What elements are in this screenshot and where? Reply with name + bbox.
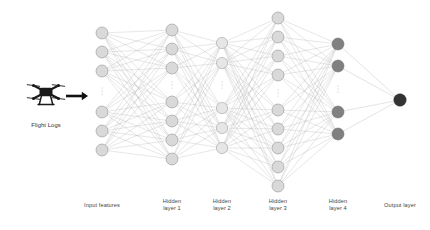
neuron-node xyxy=(216,37,227,48)
neuron-node xyxy=(272,50,284,62)
connection-line xyxy=(338,100,400,112)
connection-line xyxy=(222,63,278,148)
neuron-node xyxy=(272,104,284,116)
connection-line xyxy=(172,68,222,148)
icon-group xyxy=(27,84,88,105)
neuron-node xyxy=(216,57,227,68)
ellipsis-dot xyxy=(222,88,223,89)
neuron-node xyxy=(166,115,178,127)
neuron-node xyxy=(272,31,284,43)
ellipsis-dot xyxy=(338,85,339,86)
connection-line xyxy=(278,44,338,56)
connection-line xyxy=(278,44,338,167)
neuron-node xyxy=(272,180,284,192)
node-group xyxy=(96,12,406,192)
neuron-node xyxy=(272,123,284,135)
connection-line xyxy=(222,108,278,186)
ellipsis-dot xyxy=(222,81,223,82)
connection-line xyxy=(102,30,172,33)
connection-line xyxy=(278,37,338,112)
connection-line xyxy=(102,33,172,102)
neuron-node xyxy=(96,27,108,39)
neuron-node xyxy=(96,46,108,58)
ellipsis-dot xyxy=(278,96,279,97)
connection-line xyxy=(102,30,172,71)
connection-line xyxy=(102,30,172,52)
connection-line xyxy=(278,112,338,148)
neural-network-diagram: Input featuresHidden layer 1Hidden layer… xyxy=(0,0,430,230)
neuron-node xyxy=(332,128,344,140)
neuron-node xyxy=(216,122,227,133)
arrow-head xyxy=(82,92,88,100)
ellipsis-group xyxy=(102,81,339,96)
neuron-node xyxy=(332,60,344,72)
connection-line xyxy=(172,148,222,159)
connection-line xyxy=(222,63,278,167)
drone-leg xyxy=(39,96,41,105)
connection-line xyxy=(278,134,338,186)
neuron-node xyxy=(272,12,284,24)
ellipsis-dot xyxy=(278,89,279,90)
neuron-node xyxy=(166,134,178,146)
drone-motor xyxy=(32,97,35,100)
neuron-node xyxy=(166,62,178,74)
connection-line xyxy=(222,18,278,43)
connection-line xyxy=(102,140,172,150)
connection-line xyxy=(102,71,172,102)
connection-line xyxy=(278,112,338,167)
connection-line xyxy=(222,18,278,108)
ellipsis-dot xyxy=(278,93,279,94)
connection-line xyxy=(278,56,338,134)
neuron-node xyxy=(96,125,108,137)
neuron-node xyxy=(216,102,227,113)
connection-line xyxy=(172,63,222,121)
connection-line xyxy=(338,44,400,100)
neuron-node xyxy=(96,106,108,118)
drone-icon xyxy=(27,84,64,105)
connection-line xyxy=(222,43,278,167)
connection-line xyxy=(172,128,222,159)
connection-line xyxy=(278,112,338,129)
ellipsis-dot xyxy=(102,91,103,92)
flow-arrow-icon xyxy=(66,92,88,100)
connection-line xyxy=(338,100,400,134)
connection-line xyxy=(222,148,278,186)
neuron-node xyxy=(96,65,108,77)
drone-motor xyxy=(57,84,60,87)
neuron-node xyxy=(166,153,178,165)
connection-line xyxy=(222,43,278,56)
drone-motor xyxy=(57,97,60,100)
drone-motor xyxy=(32,84,35,87)
connection-line xyxy=(172,43,222,49)
edge-group xyxy=(102,18,400,186)
connection-line xyxy=(278,44,338,110)
connection-line xyxy=(278,112,338,186)
layer-caption-output: Output layer xyxy=(360,202,430,209)
connection-line xyxy=(338,66,400,100)
connection-line xyxy=(172,63,222,159)
connection-line xyxy=(278,134,338,167)
connection-line xyxy=(278,110,338,134)
connection-line xyxy=(172,63,222,140)
connection-line xyxy=(222,148,278,167)
connection-line xyxy=(278,75,338,112)
ellipsis-dot xyxy=(172,81,173,82)
ellipsis-dot xyxy=(338,89,339,90)
connection-line xyxy=(172,121,222,128)
ellipsis-dot xyxy=(338,92,339,93)
connection-line xyxy=(172,43,222,159)
connection-line xyxy=(222,37,278,148)
connection-line xyxy=(222,56,278,148)
connection-line xyxy=(222,63,278,186)
connection-line xyxy=(222,128,278,186)
connection-line xyxy=(172,30,222,43)
connection-line xyxy=(172,43,222,102)
connection-line xyxy=(172,43,222,121)
connection-line xyxy=(222,56,278,128)
connection-line xyxy=(222,56,278,63)
ellipsis-dot xyxy=(172,85,173,86)
neuron-node xyxy=(272,161,284,173)
connection-line xyxy=(172,102,222,108)
connection-line xyxy=(172,30,222,148)
connection-line xyxy=(172,43,222,68)
